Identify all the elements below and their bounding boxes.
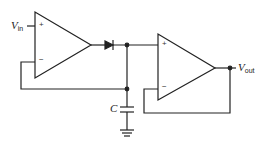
opamp1-feedback-wire [21,62,127,89]
diode-icon [105,41,113,49]
opamp1-plus-sign: + [39,20,44,29]
vout-label: Vout [238,61,254,73]
capacitor-label: C [110,102,117,114]
opamp2-plus-sign: + [162,39,167,48]
vin-label: Vin [11,19,23,31]
opamp1-minus-sign: − [39,55,44,64]
opamp2-minus-sign: − [162,82,167,91]
opamp2-feedback-wire [144,68,230,113]
